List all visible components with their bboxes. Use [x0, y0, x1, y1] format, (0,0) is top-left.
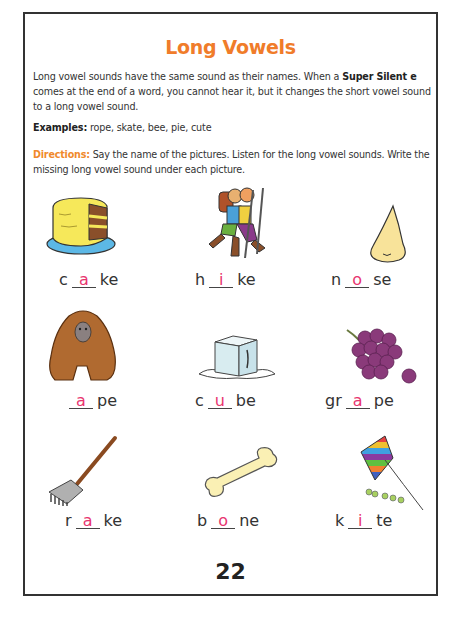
intro-paragraph: Long vowel sounds have the same sound as…	[33, 69, 433, 114]
bone-icon	[203, 444, 279, 504]
answer-blank[interactable]: a	[69, 393, 93, 409]
answer-blank[interactable]: o	[211, 513, 235, 529]
word-nose: nose	[331, 270, 391, 289]
intro-bold-term: Super Silent e	[342, 71, 416, 82]
cake-icon	[45, 194, 117, 260]
answer-blank[interactable]: i	[209, 272, 233, 288]
directions-text: Say the name of the pictures. Listen for…	[33, 149, 429, 175]
examples-text: rope, skate, bee, pie, cute	[87, 122, 211, 133]
word-cube: cube	[195, 391, 256, 410]
word-grape: grape	[325, 391, 394, 410]
page-number: 22	[25, 559, 436, 584]
kite-icon	[355, 434, 425, 518]
answer-blank[interactable]: i	[348, 513, 372, 529]
word-kite: kite	[335, 511, 392, 530]
word-rake: rake	[65, 511, 122, 530]
hikers-icon	[199, 186, 275, 266]
grapes-icon	[343, 326, 419, 390]
intro-text-after: comes at the end of a word, you cannot h…	[33, 86, 431, 112]
ape-icon	[45, 306, 121, 388]
answer-blank[interactable]: o	[345, 272, 369, 288]
directions-paragraph: Directions: Say the name of the pictures…	[33, 147, 435, 177]
nose-icon	[365, 204, 409, 270]
examples-line: Examples: rope, skate, bee, pie, cute	[33, 122, 211, 133]
word-hike: hike	[195, 270, 256, 289]
intro-text-before: Long vowel sounds have the same sound as…	[33, 71, 342, 82]
answer-blank[interactable]: a	[76, 513, 100, 529]
worksheet-page: Long Vowels Long vowel sounds have the s…	[23, 12, 438, 596]
word-cake: cake	[59, 270, 118, 289]
examples-label: Examples:	[33, 122, 87, 133]
answer-blank[interactable]: a	[346, 393, 370, 409]
word-bone: bone	[197, 511, 259, 530]
ice-cube-icon	[197, 334, 277, 386]
answer-blank[interactable]: a	[72, 272, 96, 288]
rake-icon	[47, 434, 119, 510]
answer-blank[interactable]: u	[208, 393, 232, 409]
directions-label: Directions:	[33, 149, 90, 160]
page-title: Long Vowels	[25, 36, 436, 58]
word-ape: ape	[65, 391, 117, 410]
